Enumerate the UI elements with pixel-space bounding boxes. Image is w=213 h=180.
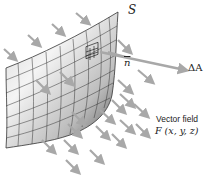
flux-diagram: S n ΔA Vector field F (x, y, z)	[0, 0, 213, 180]
field-expression: F (x, y, z)	[155, 125, 199, 136]
normal-label: n	[124, 57, 130, 68]
surface-label: S	[128, 3, 136, 17]
field-title: Vector field	[156, 114, 198, 124]
diagram-graphic	[0, 0, 213, 180]
area-vector-label: ΔA	[188, 62, 202, 73]
